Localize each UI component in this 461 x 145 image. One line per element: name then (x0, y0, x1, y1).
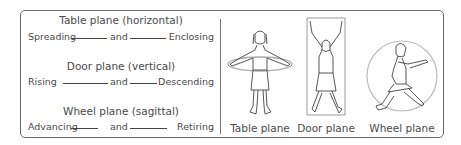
wheel-mid-label: and (110, 121, 128, 132)
table-line-right (130, 38, 166, 39)
door-plane-figure-icon (306, 17, 346, 117)
door-mid-label: and (110, 76, 128, 87)
door-plane-caption: Door plane (286, 122, 366, 134)
table-mid-label: and (110, 31, 128, 42)
wheel-plane-caption: Wheel plane (362, 122, 442, 134)
table-right-label: Enclosing (169, 31, 214, 42)
wheel-line-right (130, 128, 167, 129)
wheel-left-label: Advancing (28, 121, 78, 132)
wheel-right-label: Retiring (177, 121, 214, 132)
door-line-right (130, 83, 157, 84)
table-plane-figure-icon (225, 28, 295, 120)
wheel-plane-row: Advancing and Retiring (28, 121, 214, 135)
wheel-line-left (71, 128, 98, 129)
wheel-plane-title: Wheel plane (sagittal) (21, 105, 221, 117)
table-plane-title: Table plane (horizontal) (21, 14, 221, 26)
door-plane-title: Door plane (vertical) (21, 60, 221, 72)
door-plane-row: Rising and Descending (28, 76, 214, 90)
table-plane-row: Spreading and Enclosing (28, 31, 214, 45)
door-right-label: Descending (158, 76, 214, 87)
door-left-label: Rising (28, 76, 57, 87)
wheel-plane-figure-icon (364, 36, 440, 116)
table-line-left (71, 38, 107, 39)
door-line-left (63, 83, 108, 84)
table-left-label: Spreading (28, 31, 76, 42)
